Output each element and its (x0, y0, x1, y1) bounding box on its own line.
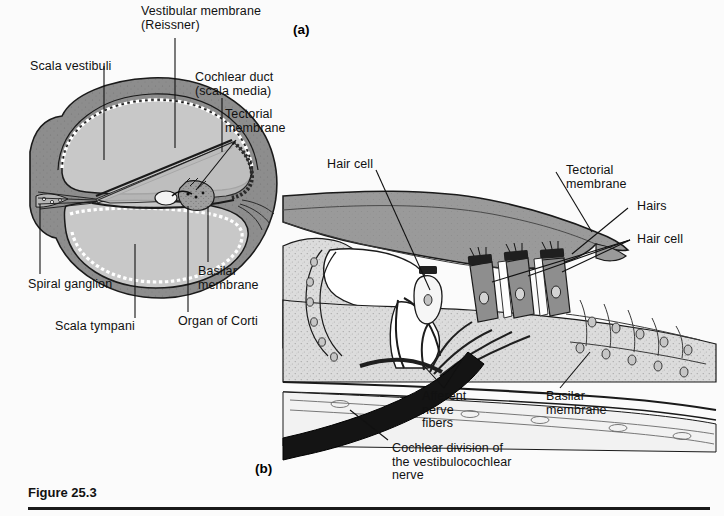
label-hair-cell-left: Hair cell (327, 158, 373, 172)
label-organ-of-corti: Organ of Corti (178, 315, 258, 329)
label-tectorial-membrane-b: Tectorial membrane (566, 164, 627, 191)
label-vestibular-membrane: Vestibular membrane (Reissner) (141, 5, 261, 32)
panel-b-tag: (b) (255, 461, 272, 476)
supporting-cell-bed (283, 300, 716, 382)
label-cochlear-duct: Cochlear duct (scala media) (195, 71, 273, 98)
outer-hair-cell-row (468, 248, 570, 322)
label-hairs: Hairs (637, 200, 667, 214)
label-spiral-ganglion: Spiral ganglion (28, 278, 112, 292)
label-scala-vestibuli: Scala vestibuli (30, 60, 111, 74)
label-basilar-membrane-b: Basilar membrane (546, 390, 607, 417)
label-hair-cell-right: Hair cell (637, 233, 683, 247)
label-scala-tympani: Scala tympani (55, 320, 135, 334)
label-cochlear-division: Cochlear division of the vestibulocochle… (392, 442, 512, 483)
label-afferent-nerve-fibers: Afferent nerve fibers (422, 390, 466, 431)
inner-hair-cell-nucleus (424, 295, 432, 306)
anatomical-illustration (0, 0, 724, 516)
label-basilar-membrane-a: Basilar membrane (198, 265, 259, 292)
panel-a-tag: (a) (293, 22, 310, 37)
label-tectorial-membrane-a: Tectorial membrane (225, 108, 286, 135)
figure-caption: Figure 25.3 (28, 485, 97, 500)
figure-25-3: Scala vestibuli Vestibular membrane (Rei… (0, 0, 724, 516)
caption-rule (28, 507, 710, 510)
